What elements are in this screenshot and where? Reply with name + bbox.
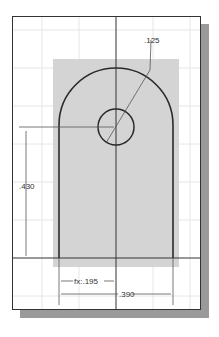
- diameter-label: .125: [144, 36, 160, 45]
- half-width-label: fx:.195: [74, 277, 99, 286]
- width-label: .390: [119, 290, 135, 299]
- sketch-canvas[interactable]: .125 .430 fx:.195 .390: [0, 0, 219, 337]
- height-label: .430: [19, 182, 35, 191]
